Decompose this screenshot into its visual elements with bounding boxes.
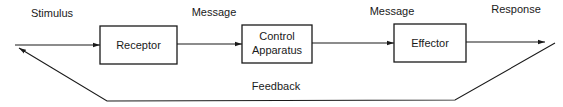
effector-block: Effector xyxy=(394,24,466,62)
effector-label: Effector xyxy=(411,37,449,49)
message-label-1: Message xyxy=(192,6,237,18)
receptor-label: Receptor xyxy=(116,39,161,51)
receptor-block: Receptor xyxy=(100,26,177,64)
control-apparatus-block: Control Apparatus xyxy=(242,25,312,63)
response-label: Response xyxy=(491,3,541,15)
feedback-diagram: Stimulus Message Message Response Feedba… xyxy=(0,0,563,107)
control-apparatus-label-line-2: Apparatus xyxy=(252,44,303,56)
feedback-label: Feedback xyxy=(252,80,301,92)
control-apparatus-label-line-1: Control xyxy=(259,30,294,42)
message-label-2: Message xyxy=(370,5,415,17)
stimulus-label: Stimulus xyxy=(31,7,74,19)
